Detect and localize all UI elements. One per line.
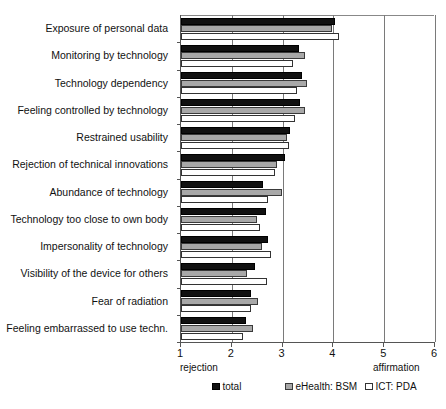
bar-total: [181, 18, 335, 25]
gridline-6: [435, 15, 436, 342]
bar-bsm: [181, 298, 258, 305]
bar-bsm: [181, 189, 282, 196]
bar-total: [181, 45, 299, 52]
category-label: Feeling controlled by technology: [17, 97, 168, 124]
bar-total: [181, 99, 300, 106]
bar-pda: [181, 169, 275, 176]
value-axis-line: [180, 342, 434, 343]
legend-swatch-total-icon: [212, 383, 220, 391]
value-tick-label: 4: [329, 347, 335, 359]
bar-pda: [181, 278, 267, 285]
bar-pda: [181, 87, 297, 94]
axis-endpoint-rejection: rejection: [180, 362, 218, 373]
bar-group: [181, 97, 435, 124]
bar-bsm: [181, 243, 262, 250]
bar-total: [181, 236, 268, 243]
plot-area: [180, 15, 435, 342]
bar-pda: [181, 115, 295, 122]
category-label: Fear of radiation: [92, 288, 168, 315]
category-label: Monitoring by technology: [51, 42, 168, 69]
bar-bsm: [181, 80, 307, 87]
bar-total: [181, 154, 285, 161]
legend-item-bsm: eHealth: BSM: [285, 381, 357, 392]
bar-bsm: [181, 25, 332, 32]
value-tick-5: [383, 342, 384, 347]
value-tick-label: 2: [228, 347, 234, 359]
legend-swatch-pda-icon: [365, 383, 373, 391]
value-tick-2: [231, 342, 232, 347]
bar-group: [181, 233, 435, 260]
bar-group: [181, 124, 435, 151]
bar-bsm: [181, 216, 257, 223]
category-axis-labels: Exposure of personal dataMonitoring by t…: [0, 15, 174, 342]
bar-chart: Exposure of personal dataMonitoring by t…: [0, 0, 446, 409]
category-label: Technology too close to own body: [10, 206, 168, 233]
bar-group: [181, 70, 435, 97]
bar-pda: [181, 333, 243, 340]
bar-group: [181, 179, 435, 206]
category-label: Restrained usability: [76, 124, 168, 151]
bar-pda: [181, 224, 260, 231]
bar-pda: [181, 305, 251, 312]
bar-total: [181, 72, 302, 79]
legend-label: total: [223, 381, 242, 392]
bar-pda: [181, 142, 289, 149]
axis-endpoint-affirmation: affirmation: [373, 362, 420, 373]
bar-total: [181, 263, 255, 270]
bar-group: [181, 151, 435, 178]
category-label: Exposure of personal data: [45, 15, 168, 42]
bar-group: [181, 260, 435, 287]
value-tick-6: [434, 342, 435, 347]
bar-group: [181, 15, 435, 42]
bar-pda: [181, 196, 268, 203]
bar-group: [181, 288, 435, 315]
bar-bsm: [181, 107, 305, 114]
bar-group: [181, 206, 435, 233]
bar-bsm: [181, 325, 253, 332]
bar-total: [181, 127, 290, 134]
legend-label: eHealth: BSM: [296, 381, 358, 392]
bar-total: [181, 208, 266, 215]
value-axis-tick-labels: 123456: [0, 347, 446, 363]
category-label: Abundance of technology: [49, 179, 168, 206]
bar-bsm: [181, 134, 287, 141]
bar-total: [181, 181, 263, 188]
value-tick-label: 6: [431, 347, 437, 359]
bar-pda: [181, 33, 339, 40]
bar-total: [181, 317, 246, 324]
value-tick-label: 3: [279, 347, 285, 359]
legend-label: ICT: PDA: [376, 381, 417, 392]
legend-item-total: total: [212, 381, 241, 392]
value-tick-4: [332, 342, 333, 347]
bar-bsm: [181, 161, 277, 168]
value-tick-label: 1: [177, 347, 183, 359]
chart-legend: totaleHealth: BSMICT: PDA: [0, 381, 446, 397]
category-label: Impersonality of technology: [40, 233, 168, 260]
category-label: Visibility of the device for others: [21, 260, 168, 287]
value-tick-1: [180, 342, 181, 347]
bar-group: [181, 315, 435, 342]
category-label: Rejection of technical innovations: [12, 151, 168, 178]
bar-pda: [181, 251, 271, 258]
value-tick-3: [282, 342, 283, 347]
legend-swatch-bsm-icon: [285, 383, 293, 391]
bar-bsm: [181, 52, 305, 59]
bar-bsm: [181, 270, 247, 277]
value-tick-label: 5: [380, 347, 386, 359]
bar-total: [181, 290, 251, 297]
category-label: Feeling embarrassed to use techn.: [6, 315, 168, 342]
legend-item-pda: ICT: PDA: [365, 381, 417, 392]
bar-group: [181, 42, 435, 69]
category-label: Technology dependency: [55, 70, 168, 97]
bar-pda: [181, 60, 293, 67]
